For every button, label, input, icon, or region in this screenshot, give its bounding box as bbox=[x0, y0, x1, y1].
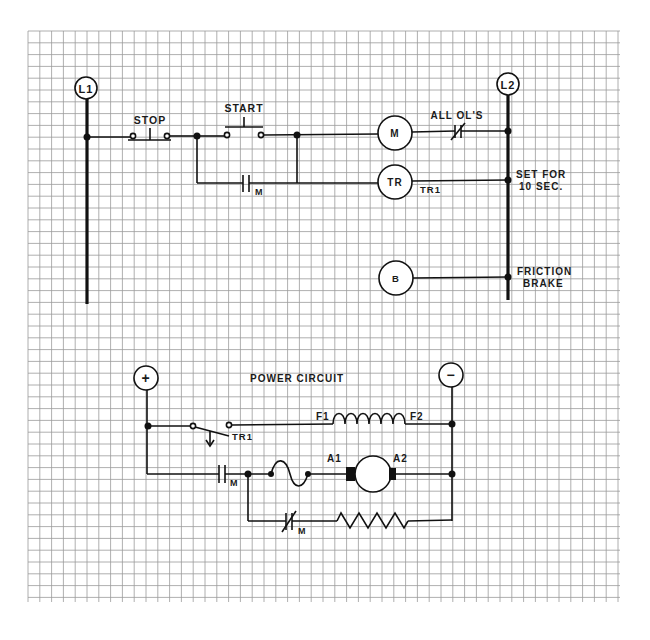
overload-label: ALL OL'S bbox=[431, 110, 484, 121]
power-circuit-title: POWER CIRCUIT bbox=[250, 373, 344, 384]
main-contact-m-label: M bbox=[230, 478, 239, 488]
timer-contact-tr1: TR1 bbox=[190, 422, 253, 446]
positive-label: + bbox=[141, 370, 150, 386]
timer-coil-label: TR bbox=[387, 177, 402, 188]
junction-negative-top bbox=[449, 421, 456, 428]
shunt-field-coil bbox=[333, 414, 405, 425]
brake-note-line2: BRAKE bbox=[523, 278, 564, 289]
l2-label: L2 bbox=[501, 79, 516, 91]
a2-label: A2 bbox=[393, 453, 408, 464]
start-pushbutton: START bbox=[224, 102, 263, 138]
fuse bbox=[271, 461, 308, 486]
junction-l2-rung3 bbox=[505, 274, 512, 281]
a1-label: A1 bbox=[327, 453, 342, 464]
tr1-label: TR1 bbox=[232, 431, 253, 442]
timer-note-line1: SET FOR bbox=[516, 169, 566, 180]
power-circuit: POWER CIRCUIT + − TR1 F1 F2 M bbox=[134, 363, 463, 536]
control-circuit: L1 L2 STOP START bbox=[75, 73, 572, 304]
l1-label: L1 bbox=[79, 83, 94, 95]
brake-note-line1: FRICTION bbox=[517, 266, 572, 277]
timer-note-line2: 10 SEC. bbox=[519, 181, 563, 192]
timer-contact-label: TR1 bbox=[420, 184, 441, 195]
holding-contact-m-label: M bbox=[255, 187, 264, 197]
junction-negative-mid bbox=[449, 471, 456, 478]
stop-label: STOP bbox=[134, 114, 166, 126]
graph-paper-grid bbox=[28, 31, 620, 602]
ladder-diagram: L1 L2 STOP START bbox=[0, 0, 650, 640]
negative-label: − bbox=[446, 367, 455, 383]
junction-l2-rung1 bbox=[505, 128, 512, 135]
f1-label: F1 bbox=[316, 411, 330, 422]
braking-resistor bbox=[337, 513, 408, 528]
dc-motor-armature bbox=[346, 456, 396, 492]
motor-coil-label: M bbox=[390, 128, 399, 139]
nc-contact-m-label: M bbox=[298, 526, 307, 536]
start-label: START bbox=[224, 102, 263, 114]
junction-l2-rung2 bbox=[505, 177, 512, 184]
brake-coil-label: B bbox=[392, 273, 400, 284]
f2-label: F2 bbox=[410, 411, 424, 422]
